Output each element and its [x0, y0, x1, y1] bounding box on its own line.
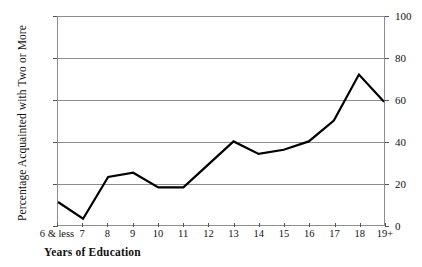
xtick-mark-0 [57, 223, 58, 227]
xtick-mark-7 [234, 223, 235, 227]
xtick-mark-10 [309, 223, 310, 227]
ytick-mark-left-100 [53, 16, 57, 17]
y-axis-title: Percentage Acquainted with Two or More [14, 8, 30, 238]
ytick-mark-right-80 [385, 58, 389, 59]
xtick-label-10: 16 [304, 228, 315, 240]
xtick-label-13: 19+ [377, 228, 393, 240]
xtick-label-2: 8 [105, 228, 110, 240]
xtick-label-12: 18 [355, 228, 366, 240]
ytick-mark-right-100 [385, 16, 389, 17]
xtick-mark-1 [82, 223, 83, 227]
xtick-label-4: 10 [153, 228, 164, 240]
xtick-label-8: 14 [254, 228, 265, 240]
xtick-mark-6 [208, 223, 209, 227]
xtick-label-5: 11 [178, 228, 188, 240]
xtick-mark-4 [158, 223, 159, 227]
ytick-label-right-0: 0 [395, 221, 422, 232]
xtick-label-7: 13 [228, 228, 239, 240]
x-axis-title: Years of Education [44, 246, 141, 258]
xtick-label-6: 12 [203, 228, 214, 240]
xtick-mark-11 [335, 223, 336, 227]
xtick-mark-12 [360, 223, 361, 227]
xtick-label-0: 6 & less [40, 228, 74, 240]
ytick-mark-right-20 [385, 184, 389, 185]
ytick-label-right-20: 20 [395, 179, 422, 190]
xtick-mark-8 [259, 223, 260, 227]
ytick-label-right-80: 80 [395, 53, 422, 64]
ytick-mark-left-20 [53, 184, 57, 185]
xtick-mark-2 [107, 223, 108, 227]
xtick-mark-5 [183, 223, 184, 227]
xtick-label-11: 17 [329, 228, 340, 240]
xtick-label-1: 7 [80, 228, 85, 240]
xtick-label-9: 15 [279, 228, 290, 240]
ytick-mark-right-40 [385, 142, 389, 143]
xtick-label-3: 9 [130, 228, 135, 240]
xtick-mark-13 [385, 223, 386, 227]
ytick-label-right-60: 60 [395, 95, 422, 106]
ytick-label-right-40: 40 [395, 137, 422, 148]
ytick-mark-left-80 [53, 58, 57, 59]
ytick-mark-right-60 [385, 100, 389, 101]
ytick-mark-left-60 [53, 100, 57, 101]
ytick-mark-left-40 [53, 142, 57, 143]
xtick-mark-3 [133, 223, 134, 227]
xtick-mark-9 [284, 223, 285, 227]
plot-area [57, 16, 385, 226]
data-series-line [58, 16, 384, 225]
line-chart: Percentage Acquainted with Two or More 1… [0, 0, 422, 267]
ytick-label-right-100: 100 [395, 11, 422, 22]
